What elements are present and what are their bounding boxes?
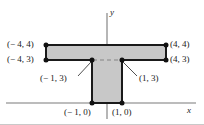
leader-line-neg1-3 (78, 62, 91, 76)
point-label-4-3: (4, 3) (170, 55, 190, 64)
point-marker-neg4-3 (44, 58, 49, 63)
point-label-1-0: (1, 0) (112, 108, 132, 117)
point-marker-neg4-4 (44, 43, 49, 48)
x-axis-label: x (187, 106, 191, 115)
point-label-4-4: (4, 4) (170, 40, 190, 49)
point-marker-4-3 (164, 58, 169, 63)
bottom-divider (0, 124, 204, 125)
point-label-1-3: (1, 3) (139, 74, 159, 83)
point-label-neg1-0: (− 1, 0) (64, 108, 91, 117)
point-marker-neg1-0 (90, 101, 95, 106)
math-figure-coordinate-plane: y x (− 4, 4) (4, 4) (− 4, 3) (4, 3) (− 1… (0, 0, 204, 125)
leader-line-1-3 (123, 62, 137, 76)
y-axis-label: y (110, 8, 114, 17)
point-marker-1-3 (120, 58, 125, 63)
point-label-neg1-3: (− 1, 3) (40, 74, 67, 83)
point-label-neg4-4: (− 4, 4) (7, 40, 34, 49)
point-label-neg4-3: (− 4, 3) (7, 55, 34, 64)
point-marker-4-4 (164, 43, 169, 48)
point-marker-neg1-3 (90, 58, 95, 63)
point-marker-1-0 (120, 101, 125, 106)
